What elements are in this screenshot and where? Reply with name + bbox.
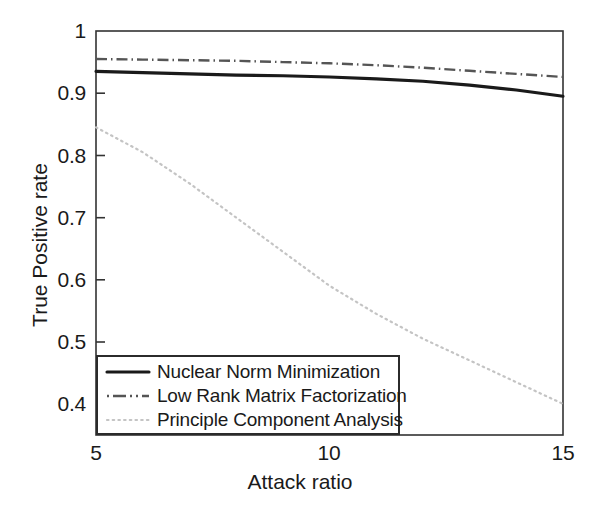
legend-line-sample-dashdot-icon — [105, 387, 151, 405]
x-tick-label-15: 15 — [552, 441, 575, 465]
y-tick-label-1: 1 — [40, 19, 86, 43]
x-tick-label-5: 5 — [90, 441, 101, 465]
x-axis-label: Attack ratio — [0, 470, 600, 494]
legend-line-sample-dotted-icon — [105, 411, 151, 429]
series-line-nuclear-norm-minimization — [96, 71, 563, 96]
legend-label-low-rank-matrix-factorization: Low Rank Matrix Factorization — [151, 385, 407, 407]
legend: Nuclear Norm Minimization Low Rank Matri… — [96, 355, 400, 435]
legend-label-principle-component-analysis: Principle Component Analysis — [151, 409, 403, 431]
y-tick-label-0-4: 0.4 — [26, 392, 86, 416]
legend-item-nuclear-norm-minimization: Nuclear Norm Minimization — [98, 360, 398, 384]
legend-line-sample-solid-icon — [105, 363, 151, 381]
legend-item-low-rank-matrix-factorization: Low Rank Matrix Factorization — [98, 384, 398, 408]
y-axis-label: True Positive rate — [28, 145, 52, 345]
y-tick-label-0-9: 0.9 — [26, 81, 86, 105]
legend-label-nuclear-norm-minimization: Nuclear Norm Minimization — [151, 361, 380, 383]
chart-figure: 1 0.9 0.8 0.7 0.6 0.5 0.4 5 10 15 True P… — [0, 0, 600, 506]
x-tick-label-10: 10 — [318, 441, 341, 465]
legend-item-principle-component-analysis: Principle Component Analysis — [98, 408, 398, 432]
